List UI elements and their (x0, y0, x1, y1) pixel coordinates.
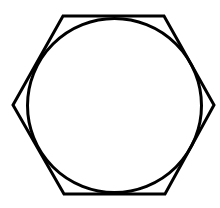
diagram-canvas (0, 0, 220, 208)
hexagon-shape (13, 16, 214, 194)
hexagon-circle-figure (0, 0, 220, 208)
inscribed-circle-shape (28, 19, 202, 193)
